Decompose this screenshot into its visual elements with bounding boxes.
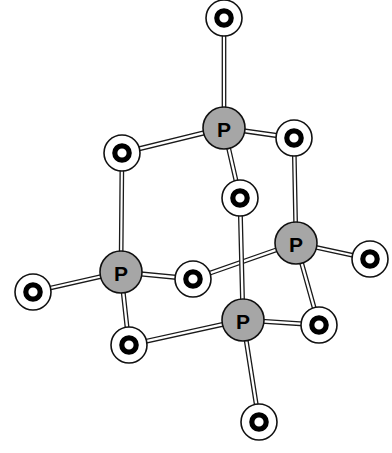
bond-p3-o6-bridge: [293, 150, 298, 228]
bond-p1-o5-bridge: [133, 130, 210, 152]
bond-p2-o2-terminal: [44, 274, 106, 291]
bond-p4-o7-bridge: [238, 210, 244, 305]
atom-oxygen-bridge-upper-right: [276, 120, 312, 156]
bond-p4-o4-terminal: [244, 335, 259, 411]
molecule-diagram: PPPP: [0, 0, 392, 453]
atom-oxygen-bridge-lower-left: [111, 327, 147, 363]
atom-oxygen-terminal-left: [15, 274, 51, 310]
oxygen-disc: [104, 135, 140, 171]
oxygen-disc: [352, 241, 388, 277]
atom-phosphorus-apex-top: P: [203, 107, 245, 149]
oxygen-disc: [111, 327, 147, 363]
bond-p3-o10-bridge: [298, 257, 317, 314]
atom-oxygen-bridge-middle: [175, 261, 211, 297]
bond-p1-o1-terminal: [222, 30, 225, 113]
atom-oxygen-bridge-lower-right: [301, 307, 337, 343]
atom-oxygen-terminal-right: [352, 241, 388, 277]
atom-oxygen-terminal-top: [206, 0, 242, 36]
atom-phosphorus-apex-front: P: [222, 299, 264, 341]
oxygen-disc: [301, 307, 337, 343]
atom-oxygen-bridge-upper-left: [104, 135, 140, 171]
atom-oxygen-terminal-bottom: [241, 404, 277, 440]
phosphorus-label: P: [114, 262, 128, 285]
bond-p3-o3-terminal: [310, 245, 358, 259]
oxygen-disc: [206, 0, 242, 36]
oxygen-disc: [276, 120, 312, 156]
atom-phosphorus-apex-left: P: [100, 251, 142, 293]
phosphorus-label: P: [289, 233, 303, 256]
oxygen-disc: [175, 261, 211, 297]
bond-p4-o10-bridge: [258, 319, 307, 326]
bond-p2-o5-bridge: [119, 165, 123, 257]
oxygen-disc: [241, 404, 277, 440]
oxygen-disc: [15, 274, 51, 310]
molecule-canvas: PPPP: [0, 0, 392, 453]
bond-p4-o9-bridge: [140, 321, 228, 344]
phosphorus-label: P: [236, 310, 250, 333]
atom-phosphorus-apex-right: P: [275, 222, 317, 264]
atom-layer: PPPP: [15, 0, 388, 440]
bond-layer: [44, 30, 358, 410]
atom-oxygen-bridge-center: [222, 180, 258, 216]
oxygen-disc: [222, 180, 258, 216]
phosphorus-label: P: [217, 118, 231, 141]
